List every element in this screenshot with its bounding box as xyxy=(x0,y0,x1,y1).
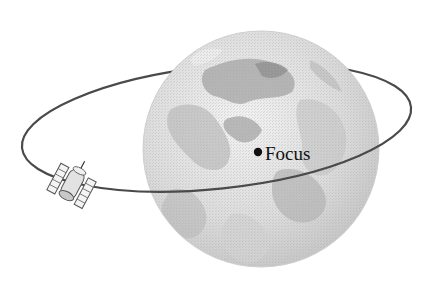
focus-label: Focus xyxy=(265,144,310,163)
earth-globe xyxy=(140,27,385,272)
orbit-diagram xyxy=(0,0,436,292)
satellite-icon xyxy=(47,152,103,209)
focus-point xyxy=(254,148,262,156)
